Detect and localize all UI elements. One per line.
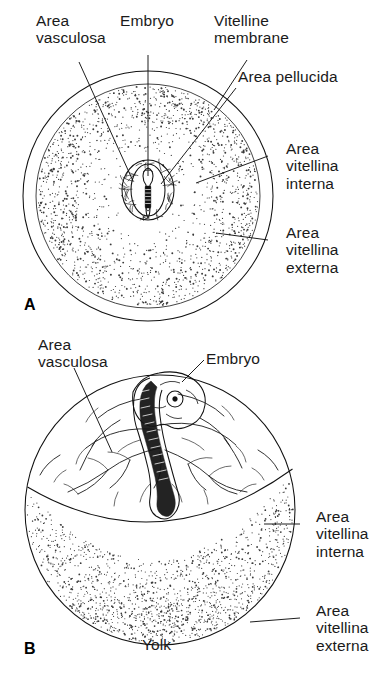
panel-b-artwork bbox=[25, 360, 300, 645]
label-area-vasculosa-a: Area vasculosa bbox=[36, 12, 106, 47]
leader-ave-a bbox=[216, 233, 268, 240]
label-ave-b: Area vitellina externa bbox=[316, 602, 369, 654]
label-embryo-a: Embryo bbox=[120, 12, 174, 29]
label-ave-a: Area vitellina externa bbox=[286, 224, 339, 276]
label-avi-b: Area vitellina interna bbox=[316, 508, 369, 560]
leader-area-vasculosa-a bbox=[79, 62, 133, 181]
panel-label-b: B bbox=[24, 640, 36, 658]
panel-label-a: A bbox=[24, 296, 36, 314]
label-area-pellucida: Area pellucida bbox=[238, 68, 338, 85]
leader-ave-b bbox=[250, 618, 300, 622]
label-avi-a: Area vitellina interna bbox=[286, 140, 339, 192]
leader-area-vasculosa-b bbox=[74, 368, 112, 452]
label-area-vasculosa-b: Area vasculosa bbox=[38, 336, 108, 371]
embryo-b bbox=[133, 372, 206, 519]
label-vitelline-membrane: Vitelline membrane bbox=[214, 12, 289, 47]
figure-canvas: Area vasculosa Embryo Vitelline membrane… bbox=[0, 0, 390, 680]
label-embryo-b: Embryo bbox=[206, 350, 260, 367]
label-yolk: Yolk bbox=[142, 636, 171, 653]
panel-a-artwork bbox=[23, 55, 273, 321]
